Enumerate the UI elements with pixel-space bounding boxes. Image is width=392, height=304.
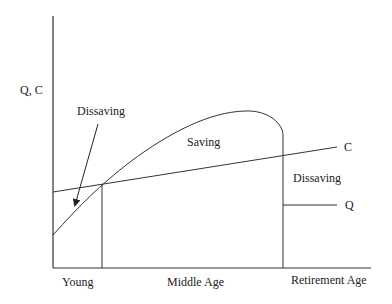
- saving-label: Saving: [187, 136, 220, 148]
- consumption-line: [53, 147, 337, 192]
- x-label-middle-age: Middle Age: [167, 276, 224, 288]
- dissaving-arrow-icon: [75, 124, 98, 205]
- income-curve-label: Q: [345, 199, 354, 211]
- x-label-young: Young: [62, 276, 93, 288]
- life-cycle-diagram: [0, 0, 392, 304]
- dissaving-young-label: Dissaving: [77, 105, 125, 117]
- x-label-retirement-age: Retirement Age: [291, 274, 367, 286]
- consumption-line-label: C: [344, 141, 352, 153]
- y-axis-label: Q, C: [20, 84, 43, 96]
- dissaving-retirement-label: Dissaving: [293, 172, 341, 184]
